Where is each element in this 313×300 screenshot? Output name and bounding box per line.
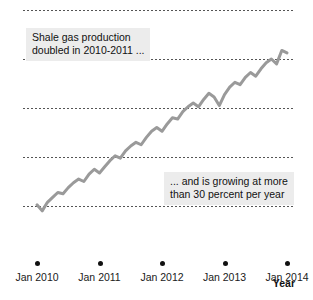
x-tick-label-0: Jan 2010 [15,271,58,283]
x-tick-label-2: Jan 2012 [140,271,183,283]
annotation-callout-1: Shale gas production doubled in 2010-201… [26,28,150,61]
annotation-callout-2: ... and is growing at more than 30 perce… [164,172,294,205]
chart-figure: ······································ 2… [0,0,313,300]
x-tick-label-3: Jan 2013 [203,271,246,283]
cut-off-caption-sliver: ······································ [22,0,292,2]
x-tick-label-1: Jan 2011 [78,271,120,283]
x-axis-title: Year [273,277,295,289]
